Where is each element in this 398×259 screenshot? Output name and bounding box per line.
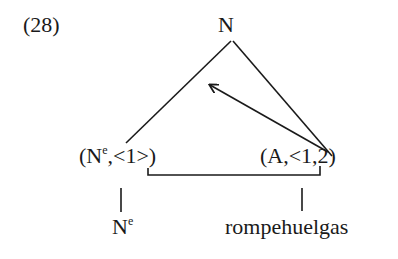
left-leaf-label: Ne [112, 216, 133, 238]
root-node-label: N [218, 14, 234, 36]
left-node-label: (Ne,<1>) [79, 145, 156, 167]
right-node-label: (A,<1,2) [260, 145, 336, 167]
example-number: (28) [23, 14, 60, 36]
edge-root-right [233, 41, 332, 156]
movement-arrow [210, 85, 328, 152]
edge-root-left [126, 41, 231, 143]
right-leaf-label: rompehuelgas [225, 216, 348, 238]
